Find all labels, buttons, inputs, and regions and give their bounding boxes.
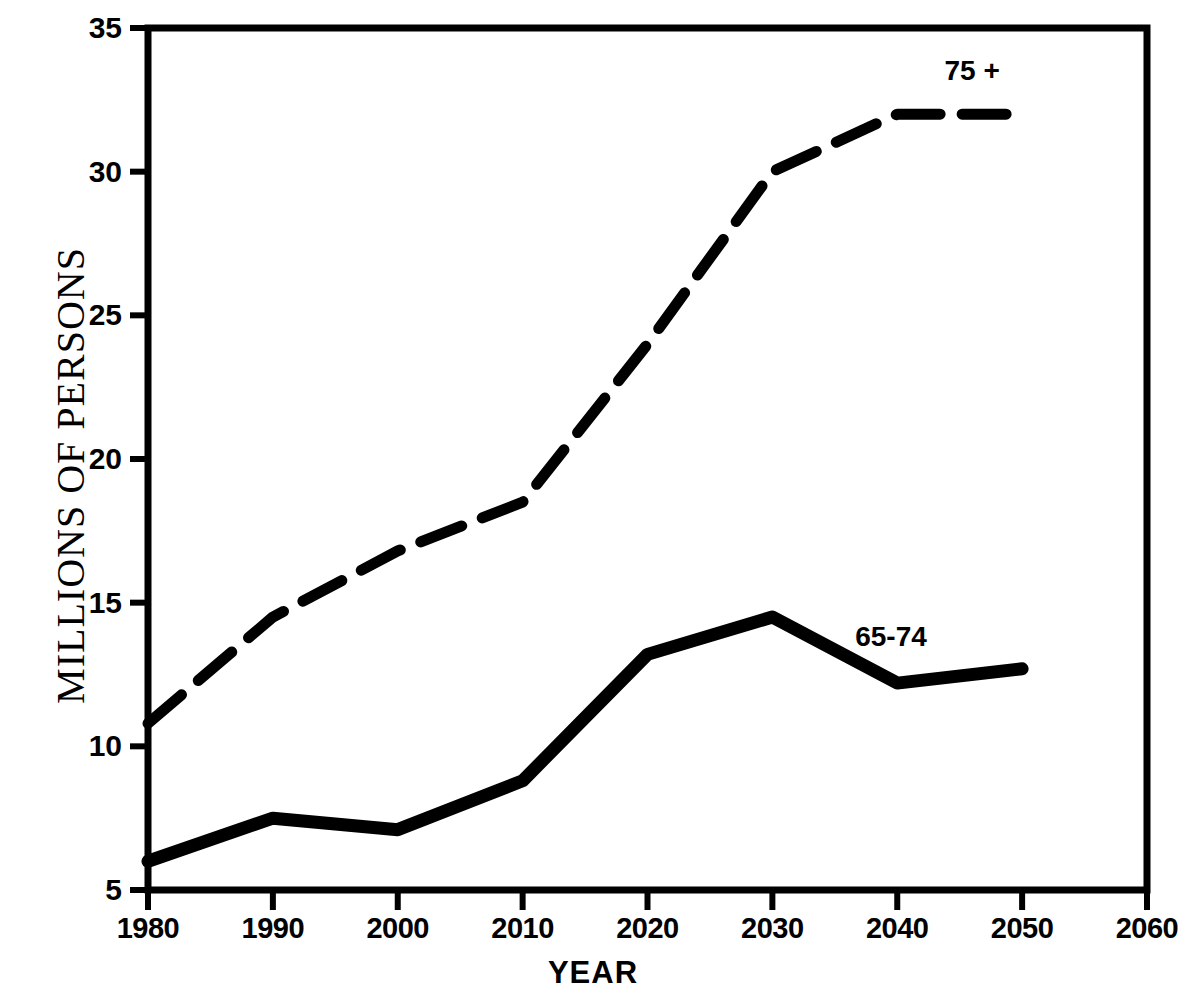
data-series-group — [148, 114, 1022, 861]
x-axis-tick-label: 2050 — [962, 912, 1082, 945]
series-line-65-74 — [148, 617, 1022, 861]
chart-figure: 5101520253035 19801990200020102020203020… — [0, 0, 1186, 1008]
axis-frame — [148, 28, 1147, 890]
x-axis-tick-label: 2060 — [1087, 912, 1186, 945]
x-axis-tick-label: 1980 — [88, 912, 208, 945]
y-axis-tick-label: 5 — [52, 873, 122, 907]
series-label-75: 75 + — [945, 55, 1000, 87]
x-axis-title: YEAR — [0, 955, 1186, 991]
y-axis-title: MILLIONS OF PERSONS — [47, 166, 94, 786]
chart-axes — [148, 28, 1147, 890]
x-axis-tick-label: 2020 — [588, 912, 708, 945]
x-axis-tick-label: 2010 — [463, 912, 583, 945]
x-axis-tick-label: 2040 — [837, 912, 957, 945]
axis-ticks — [130, 28, 1147, 910]
line-chart-canvas — [0, 0, 1186, 1008]
x-axis-tick-label: 1990 — [213, 912, 333, 945]
x-axis-tick-label: 2030 — [712, 912, 832, 945]
x-axis-tick-label: 2000 — [338, 912, 458, 945]
series-label-65-74: 65-74 — [855, 621, 927, 653]
y-axis-tick-label: 35 — [52, 11, 122, 45]
